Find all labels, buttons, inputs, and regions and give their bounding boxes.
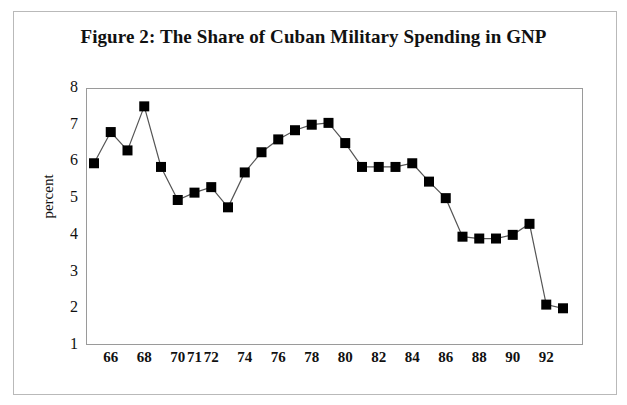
y-axis-tick-label: 4	[52, 225, 78, 243]
y-axis-tick-label: 2	[52, 298, 78, 316]
line-chart: percent 87654321 66687071727476788082848…	[0, 0, 627, 405]
y-axis-tick-label: 8	[52, 78, 78, 96]
y-axis-tick-label: 3	[52, 262, 78, 280]
y-axis-tick-label: 5	[52, 188, 78, 206]
x-axis-tick-label: 92	[526, 349, 566, 366]
y-axis-tick-label: 1	[52, 335, 78, 353]
y-axis-tick-label: 7	[52, 115, 78, 133]
figure-container: Figure 2: The Share of Cuban Military Sp…	[0, 0, 627, 405]
plot-frame	[86, 88, 583, 345]
y-axis-tick-label: 6	[52, 151, 78, 169]
